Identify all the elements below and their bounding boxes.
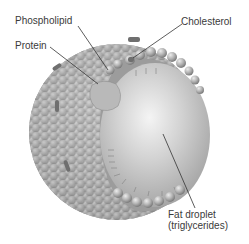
protein-shape bbox=[90, 81, 121, 110]
label-fat-droplet: Fat droplet (triglycerides) bbox=[168, 209, 228, 231]
label-phospholipid: Phospholipid bbox=[15, 15, 72, 26]
label-fat-droplet-line1: Fat droplet bbox=[168, 209, 228, 220]
label-fat-droplet-line2: (triglycerides) bbox=[168, 220, 228, 231]
label-cholesterol: Cholesterol bbox=[181, 16, 232, 27]
label-protein: Protein bbox=[15, 40, 47, 51]
lipoprotein-illustration bbox=[0, 0, 249, 244]
lipoprotein-diagram: Phospholipid Cholesterol Protein Fat dro… bbox=[0, 0, 249, 244]
